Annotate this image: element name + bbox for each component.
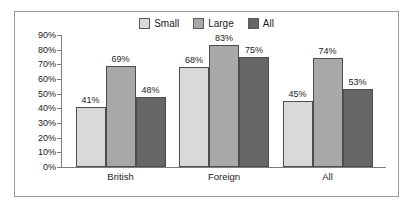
bar-all-large[interactable] xyxy=(313,58,343,167)
bar-column: 74% xyxy=(313,35,343,167)
bar-column: 53% xyxy=(343,35,373,167)
x-axis-line xyxy=(61,167,386,168)
bar-column: 83% xyxy=(209,35,239,167)
bar-value-label: 48% xyxy=(141,85,159,95)
plot-wrapper: 90%80%70%60%50%40%30%20%10%0% 41%69%48%6… xyxy=(15,12,400,198)
chart-frame: SmallLargeAll 90%80%70%60%50%40%30%20%10… xyxy=(14,11,399,197)
y-tick-label: 0% xyxy=(43,163,56,172)
category-label-foreign: Foreign xyxy=(208,171,240,183)
bar-value-label: 45% xyxy=(288,89,306,99)
bar-column: 48% xyxy=(136,35,166,167)
bar-value-label: 41% xyxy=(81,95,99,105)
bar-group-british: 41%69%48% xyxy=(76,35,166,167)
y-tick-label: 20% xyxy=(38,133,56,142)
bar-foreign-small[interactable] xyxy=(179,67,209,167)
bar-all-all[interactable] xyxy=(343,89,373,167)
y-axis-tick-labels: 90%80%70%60%50%40%30%20%10%0% xyxy=(23,35,56,167)
plot-area: 41%69%48%68%83%75%45%74%53% xyxy=(62,35,386,167)
bar-british-large[interactable] xyxy=(106,66,136,167)
bar-value-label: 69% xyxy=(111,54,129,64)
bar-value-label: 75% xyxy=(245,45,263,55)
bar-british-small[interactable] xyxy=(76,107,106,167)
y-tick-label: 50% xyxy=(38,89,56,98)
y-tick-label: 80% xyxy=(38,45,56,54)
category-label-british: British xyxy=(107,171,133,183)
bar-foreign-all[interactable] xyxy=(239,57,269,167)
y-tick-mark xyxy=(57,167,62,168)
bar-column: 45% xyxy=(283,35,313,167)
bar-group-foreign: 68%83%75% xyxy=(179,35,269,167)
bar-all-small[interactable] xyxy=(283,101,313,167)
bar-column: 68% xyxy=(179,35,209,167)
x-axis-category-labels: BritishForeignAll xyxy=(62,171,386,185)
bar-british-all[interactable] xyxy=(136,97,166,167)
bar-value-label: 68% xyxy=(185,55,203,65)
y-tick-label: 10% xyxy=(38,148,56,157)
y-tick-label: 30% xyxy=(38,119,56,128)
bar-column: 75% xyxy=(239,35,269,167)
bar-value-label: 74% xyxy=(318,46,336,56)
y-tick-label: 70% xyxy=(38,60,56,69)
y-tick-label: 60% xyxy=(38,75,56,84)
bar-column: 41% xyxy=(76,35,106,167)
bar-value-label: 83% xyxy=(215,33,233,43)
y-tick-label: 40% xyxy=(38,104,56,113)
category-label-all: All xyxy=(322,171,333,183)
bar-group-all: 45%74%53% xyxy=(283,35,373,167)
bar-foreign-large[interactable] xyxy=(209,45,239,167)
y-tick-label: 90% xyxy=(38,31,56,40)
bar-value-label: 53% xyxy=(348,77,366,87)
bar-column: 69% xyxy=(106,35,136,167)
